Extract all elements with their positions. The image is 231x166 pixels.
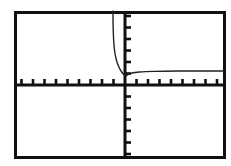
- plot-canvas: [0, 0, 231, 166]
- canvas-background: [0, 0, 231, 166]
- graph-screenshot: [0, 0, 231, 166]
